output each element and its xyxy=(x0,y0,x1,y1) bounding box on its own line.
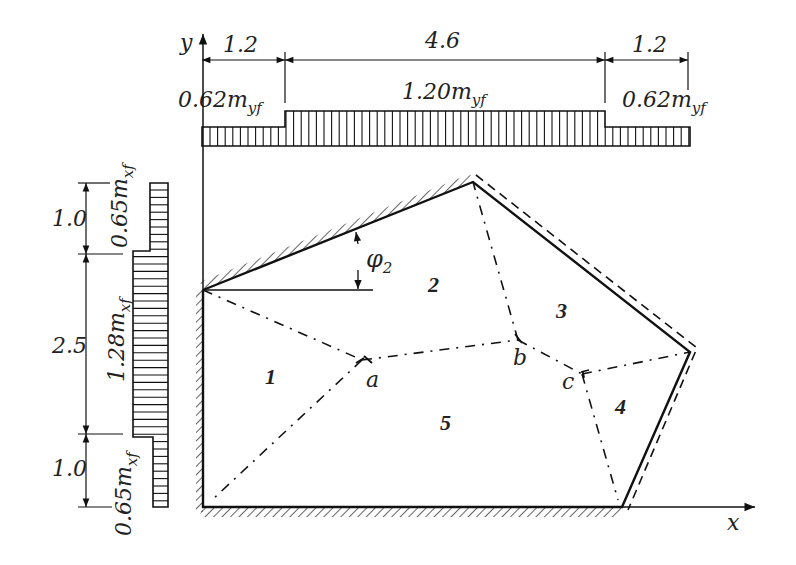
fixed-support-bottom xyxy=(199,507,622,517)
region-3: 3 xyxy=(555,298,567,323)
angle-label: φ2 xyxy=(366,245,392,277)
region-1: 1 xyxy=(265,364,276,389)
left-moment-diagram: 1.0 2.5 1.0 0.65mxf 1.28mxf 0.65mxf xyxy=(51,162,168,536)
moment-label-top: 0.65mxf xyxy=(107,162,137,248)
moment-block-top xyxy=(202,111,690,146)
node-b-marker xyxy=(515,334,522,343)
y-axis-label: y xyxy=(179,30,193,55)
moment-label-middle: 1.20myf xyxy=(402,79,488,109)
region-4: 4 xyxy=(614,394,626,419)
dim-label-middle: 2.5 xyxy=(51,333,87,358)
moment-label-bottom: 0.65mxf xyxy=(111,450,141,536)
region-2: 2 xyxy=(427,272,439,297)
simple-support-edge xyxy=(476,175,697,510)
moment-label-left: 0.62myf xyxy=(178,87,264,117)
node-label-b: b xyxy=(513,345,527,370)
moment-label-right: 0.62myf xyxy=(622,87,708,117)
dim-label-middle: 4.6 xyxy=(424,28,460,53)
angle-arrow-up xyxy=(356,232,358,244)
dim-label-left: 1.2 xyxy=(223,32,258,57)
x-axis-label: x xyxy=(727,510,740,535)
node-label-c: c xyxy=(562,369,574,394)
yield-lines xyxy=(203,182,690,500)
region-5: 5 xyxy=(440,410,451,435)
dim-label-right: 1.2 xyxy=(632,32,667,57)
slab: φ2 a b c 1 2 3 4 5 xyxy=(196,174,697,517)
moment-label-middle: 1.28mxf xyxy=(104,296,134,382)
dim-label-bottom: 1.0 xyxy=(52,456,87,481)
top-moment-diagram: 1.2 4.6 1.2 0.62myf 1.20myf 0.62myf xyxy=(178,28,708,146)
node-label-a: a xyxy=(366,367,379,392)
yield-line-diagram: 1.2 4.6 1.2 0.62myf 1.20myf 0.62myf 1.0 … xyxy=(0,0,796,565)
slab-boundary xyxy=(203,182,690,507)
dim-label-top: 1.0 xyxy=(52,206,87,231)
